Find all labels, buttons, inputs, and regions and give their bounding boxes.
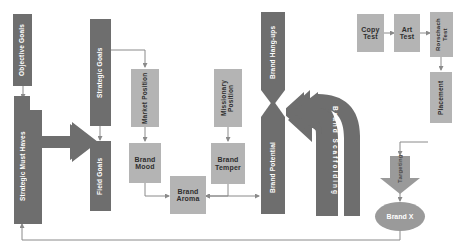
- node-brand-hang-ups-label: Brand Hang-ups: [270, 25, 277, 78]
- node-brand-hang-ups-label-wrap: Brand Hang-ups: [257, 14, 289, 90]
- node-targeting-label: Targeting: [397, 155, 403, 184]
- diagram-canvas: Objective Goals Strategic Must Haves Str…: [0, 0, 465, 249]
- node-brand-mood-label: Brand Mood: [129, 156, 161, 171]
- node-copy-test[interactable]: Copy Test: [357, 14, 384, 52]
- node-rorschach-test[interactable]: Rorschach Test: [430, 12, 453, 57]
- node-placement-label: Placement: [438, 80, 445, 114]
- node-targeting-label-wrap: Targeting: [389, 157, 411, 181]
- node-strategic-goals-label: Strategic Goals: [97, 47, 104, 98]
- node-brand-temper-label: Brand Temper: [211, 156, 245, 171]
- node-objective-goals-label: Objective Goals: [19, 24, 26, 76]
- node-brand-x[interactable]: Brand X: [375, 202, 425, 231]
- node-brand-potential-label: Brand Potential: [270, 141, 277, 192]
- node-art-test[interactable]: Art Test: [394, 14, 420, 52]
- node-brand-scaffolding[interactable]: [286, 88, 362, 216]
- node-brand-potential-label-wrap: Brand Potential: [257, 122, 289, 212]
- node-missionary-position[interactable]: Missionary Position: [214, 69, 242, 127]
- node-field-goals[interactable]: Field Goals: [90, 141, 111, 211]
- node-strategic-must-haves[interactable]: Strategic Must Haves: [12, 110, 34, 222]
- node-brand-temper[interactable]: Brand Temper: [211, 143, 245, 184]
- node-missionary-position-label: Missionary Position: [221, 69, 235, 127]
- node-brand-mood[interactable]: Brand Mood: [129, 143, 161, 183]
- node-rorschach-test-label: Rorschach Test: [435, 12, 448, 57]
- node-market-position[interactable]: Market Position: [131, 69, 159, 127]
- node-brand-aroma[interactable]: Brand Aroma: [170, 176, 206, 214]
- node-copy-test-label: Copy Test: [357, 26, 384, 41]
- node-strategic-must-haves-label: Strategic Must Haves: [20, 131, 27, 201]
- node-brand-aroma-label: Brand Aroma: [170, 188, 206, 203]
- node-placement[interactable]: Placement: [430, 72, 452, 123]
- node-objective-goals[interactable]: Objective Goals: [13, 14, 32, 86]
- node-art-test-label: Art Test: [394, 26, 420, 41]
- node-brand-x-label: Brand X: [387, 213, 414, 220]
- node-market-position-label: Market Position: [142, 72, 149, 123]
- node-brand-scaffolding-label: Brand Scaffolding: [332, 106, 339, 196]
- node-brand-scaffolding-label-wrap: Brand Scaffolding: [332, 106, 339, 206]
- node-strategic-goals[interactable]: Strategic Goals: [90, 19, 111, 126]
- node-field-goals-label: Field Goals: [97, 157, 104, 194]
